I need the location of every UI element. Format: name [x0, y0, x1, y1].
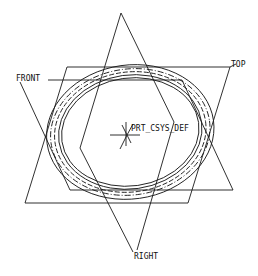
front-label: FRONT: [16, 74, 40, 83]
csys-label: PRT_CSYS_DEF: [131, 124, 189, 133]
top-label: TOP: [231, 60, 246, 69]
right-label: RIGHT: [134, 252, 158, 261]
datum-plane-top[interactable]: [25, 64, 236, 203]
cad-graphics-viewport[interactable]: FRONT TOP RIGHT PRT_CSYS_DEF: [0, 0, 258, 276]
